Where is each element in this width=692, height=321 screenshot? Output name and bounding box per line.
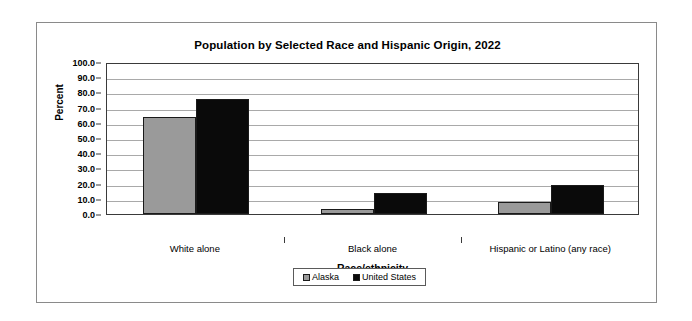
chart-legend: AlaskaUnited States: [293, 268, 426, 286]
bar-united-states-black-alone: [374, 193, 427, 214]
y-axis-tick-label: 40.0: [77, 149, 95, 159]
legend-label: United States: [362, 272, 416, 282]
legend-swatch-icon: [353, 274, 360, 281]
chart-figure-frame: Population by Selected Race and Hispanic…: [36, 22, 657, 303]
plot-area: [106, 63, 639, 215]
x-axis-category-label: Hispanic or Latino (any race): [489, 243, 610, 254]
x-axis-category-label: White alone: [170, 243, 220, 254]
y-axis-tick-mark: [96, 154, 101, 155]
bar-alaska-hispanic-or-latino-any-race-: [498, 202, 551, 214]
y-axis-tick-mark: [96, 199, 101, 200]
legend-swatch-icon: [303, 274, 310, 281]
y-axis-tick-label: 80.0: [77, 88, 95, 98]
x-axis-group-separator: [284, 237, 285, 243]
gridline: [107, 79, 638, 80]
y-axis-tick-label: 30.0: [77, 164, 95, 174]
legend-entry-alaska: Alaska: [303, 272, 339, 282]
y-axis-tick-label: 50.0: [77, 134, 95, 144]
y-axis-tick-label: 100.0: [72, 58, 95, 68]
y-axis-tick-label: 20.0: [77, 180, 95, 190]
legend-label: Alaska: [312, 272, 339, 282]
gridline: [107, 94, 638, 95]
y-axis-tick-label: 90.0: [77, 73, 95, 83]
x-axis-category-label: Black alone: [348, 243, 397, 254]
y-axis-tick-label: 60.0: [77, 119, 95, 129]
legend-entry-united-states: United States: [353, 272, 416, 282]
bar-united-states-hispanic-or-latino-any-race-: [551, 185, 604, 214]
y-axis-tick-labels: 100.090.080.070.060.050.040.030.020.010.…: [37, 63, 101, 215]
y-axis-tick-mark: [96, 215, 101, 216]
y-axis-tick-label: 70.0: [77, 104, 95, 114]
y-axis-tick-mark: [96, 93, 101, 94]
y-axis-tick-mark: [96, 78, 101, 79]
y-axis-tick-mark: [96, 169, 101, 170]
y-axis-tick-mark: [96, 63, 101, 64]
bar-alaska-black-alone: [321, 209, 374, 214]
gridline: [107, 110, 638, 111]
y-axis-tick-mark: [96, 184, 101, 185]
y-axis-tick-label: 0.0: [82, 210, 95, 220]
y-axis-tick-mark: [96, 139, 101, 140]
y-axis-tick-label: 10.0: [77, 195, 95, 205]
bar-united-states-white-alone: [196, 99, 249, 214]
y-axis-tick-mark: [96, 108, 101, 109]
x-axis-group-separator: [461, 237, 462, 243]
chart-title: Population by Selected Race and Hispanic…: [37, 39, 658, 51]
y-axis-tick-mark: [96, 123, 101, 124]
bar-alaska-white-alone: [143, 117, 196, 214]
